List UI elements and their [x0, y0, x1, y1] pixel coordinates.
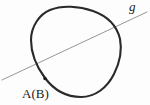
geometry-figure: g A(B): [0, 0, 150, 105]
secant-line-g: [2, 12, 147, 80]
closed-curve: [31, 7, 121, 97]
line-label-g: g: [129, 0, 136, 13]
point-label-ab: A(B): [22, 87, 49, 100]
point-marker-ab: [43, 77, 46, 80]
